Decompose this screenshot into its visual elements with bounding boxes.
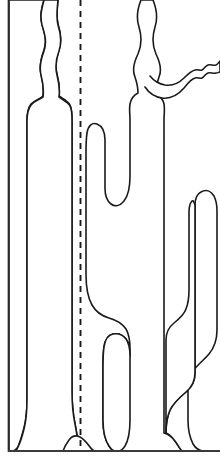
- cactus-line-drawing: [0, 0, 220, 468]
- figure-canvas: cacti: [0, 0, 220, 468]
- middle-cactus-lower-arm: [103, 334, 130, 451]
